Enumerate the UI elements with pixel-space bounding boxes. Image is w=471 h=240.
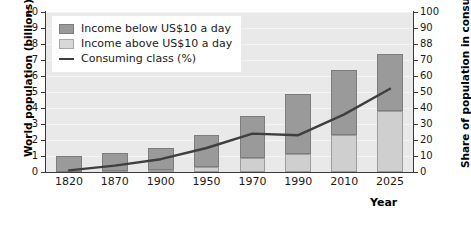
y-axis-left-tick bbox=[41, 60, 45, 61]
y-axis-left-title: World population (billions) bbox=[22, 0, 34, 158]
legend-item: Consuming class (%) bbox=[59, 51, 232, 66]
y-axis-right-tick-label: 30 bbox=[420, 119, 433, 129]
y-axis-right-tick-label: 90 bbox=[420, 23, 433, 33]
y-axis-right-tick-label: 0 bbox=[420, 167, 426, 177]
y-axis-left-tick bbox=[41, 124, 45, 125]
consuming-class-line bbox=[69, 89, 390, 171]
y-axis-right-tick-label: 88 bbox=[420, 39, 433, 49]
y-axis-left-tick bbox=[41, 76, 45, 77]
legend-swatch-below-icon bbox=[59, 24, 74, 34]
chart-legend: Income below US$10 a dayIncome above US$… bbox=[52, 16, 241, 72]
y-axis-right-tick bbox=[414, 28, 418, 29]
y-axis-left-line bbox=[45, 11, 46, 173]
y-axis-right-tick bbox=[414, 156, 418, 157]
legend-swatch-line-icon bbox=[59, 54, 74, 64]
y-axis-right-tick bbox=[414, 12, 418, 13]
y-axis-left-tick bbox=[41, 156, 45, 157]
y-axis-right-title: Share of population in consuming class (… bbox=[459, 0, 471, 168]
legend-item-label: Income below US$10 a day bbox=[81, 23, 231, 35]
y-axis-right-tick bbox=[414, 60, 418, 61]
y-axis-left-tick bbox=[41, 108, 45, 109]
y-axis-right-tick-label: 20 bbox=[420, 135, 433, 145]
legend-item-label: Consuming class (%) bbox=[81, 53, 196, 65]
y-axis-left-tick bbox=[41, 44, 45, 45]
x-axis-tick-label-2025: 2025 bbox=[363, 176, 417, 188]
y-axis-right-tick bbox=[414, 76, 418, 77]
y-axis-left-tick bbox=[41, 140, 45, 141]
y-axis-right-tick-label: 70 bbox=[420, 55, 433, 65]
y-axis-left-tick bbox=[41, 12, 45, 13]
y-axis-right-tick bbox=[414, 140, 418, 141]
legend-swatch-above-icon bbox=[59, 39, 74, 49]
y-axis-right-tick bbox=[414, 172, 418, 173]
y-axis-right-tick bbox=[414, 92, 418, 93]
legend-item-label: Income above US$10 a day bbox=[81, 38, 232, 50]
y-axis-left-tick bbox=[41, 172, 45, 173]
y-axis-right-tick bbox=[414, 108, 418, 109]
legend-item: Income below US$10 a day bbox=[59, 21, 232, 36]
y-axis-left-tick bbox=[41, 28, 45, 29]
y-axis-left-tick bbox=[41, 92, 45, 93]
y-axis-right-tick-label: 100 bbox=[420, 7, 439, 17]
legend-item: Income above US$10 a day bbox=[59, 36, 232, 51]
y-axis-right-tick-label: 50 bbox=[420, 87, 433, 97]
y-axis-left-tick-label: 0 bbox=[16, 167, 38, 177]
y-axis-right-tick-label: 60 bbox=[420, 71, 433, 81]
x-axis-title: Year bbox=[370, 196, 397, 209]
y-axis-right-tick-label: 40 bbox=[420, 103, 433, 113]
x-axis-line bbox=[45, 172, 414, 173]
y-axis-right-tick-label: 10 bbox=[420, 151, 433, 161]
y-axis-right-tick bbox=[414, 124, 418, 125]
y-axis-right-tick bbox=[414, 44, 418, 45]
